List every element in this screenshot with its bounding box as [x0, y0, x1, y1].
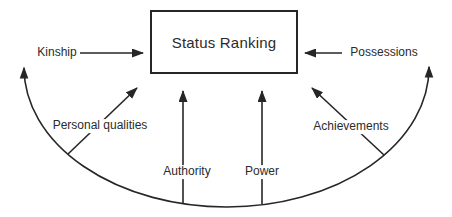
- authority-label: Authority: [161, 165, 212, 179]
- status-ranking-box: Status Ranking: [150, 10, 298, 74]
- possessions-label: Possessions: [348, 46, 419, 60]
- base-arc-right-arrowhead-icon: [425, 66, 434, 78]
- status-ranking-diagram: Status Ranking Kinship Possessions Perso…: [0, 0, 452, 217]
- personal-qualities-label: Personal qualities: [51, 119, 150, 133]
- achievements-label: Achievements: [311, 120, 390, 134]
- power-label: Power: [243, 165, 281, 179]
- kinship-label: Kinship: [35, 46, 78, 60]
- base-arc-left-arrowhead-icon: [20, 67, 29, 79]
- status-ranking-label: Status Ranking: [172, 34, 277, 51]
